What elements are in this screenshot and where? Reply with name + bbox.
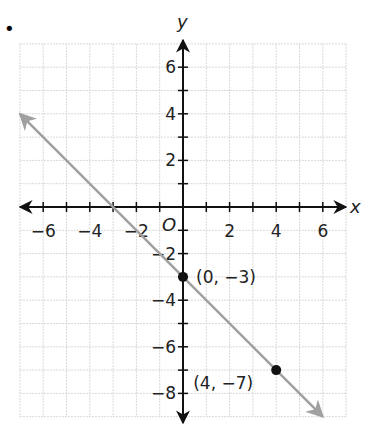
point-label: (0, −3) [196,267,256,287]
x-tick-label: 2 [224,221,235,241]
y-tick-label: −2 [151,244,176,264]
y-tick-label: 4 [165,104,176,124]
y-tick-label: −6 [151,337,176,357]
y-tick-label: 2 [165,150,176,170]
y-axis-label: y [176,11,188,32]
data-point [271,365,281,375]
x-tick-label: 6 [317,221,328,241]
x-axis-label: x [349,196,361,217]
x-tick-label: −4 [77,221,102,241]
point-label: (4, −7) [193,373,253,393]
data-point [178,272,188,282]
y-tick-label: −4 [151,290,176,310]
y-tick-label: 6 [165,57,176,77]
origin-label: O [162,214,176,235]
x-tick-label: 4 [271,221,282,241]
x-tick-label: −6 [31,221,56,241]
coordinate-plane: −6−4−2246642−2−4−6−8Oxy(0, −3)(4, −7) [0,0,366,426]
y-tick-label: −8 [151,383,176,403]
